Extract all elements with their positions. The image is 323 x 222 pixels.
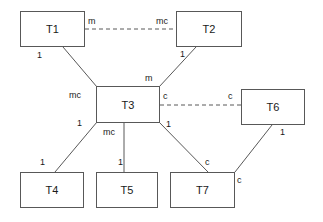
- entity-label: T7: [196, 184, 209, 196]
- cardinality-label-t3-t6-near-t6: c: [228, 92, 233, 101]
- edge-t3-t7: [159, 122, 208, 172]
- entity-box-t5[interactable]: T5: [96, 172, 158, 208]
- entity-label: T3: [121, 99, 134, 111]
- cardinality-label-t1-t2-near-t2: mc: [156, 17, 168, 26]
- cardinality-label-t1-t3-near-t3: mc: [69, 91, 81, 100]
- cardinality-label-t6-t7-near-t6: 1: [280, 128, 285, 137]
- entity-box-t4[interactable]: T4: [20, 172, 84, 208]
- edge-t6-t7: [235, 125, 272, 172]
- cardinality-label-t2-t3-near-t3: m: [145, 74, 153, 83]
- cardinality-label-t2-t3-near-t2: 1: [180, 50, 185, 59]
- cardinality-label-t3-t7-near-t3: 1: [166, 120, 171, 129]
- cardinality-label-t3-t6-near-t3: c: [163, 92, 168, 101]
- edge-t3-t4: [55, 122, 97, 172]
- cardinality-label-t3-t4-near-t3: 1: [77, 119, 82, 128]
- diagram-canvas: T1T2T3T6T4T5T7 mmc1mc1mcc11mc11c1c: [0, 0, 323, 222]
- cardinality-label-t6-t7-near-t7: c: [237, 176, 242, 185]
- entity-label: T5: [120, 184, 133, 196]
- cardinality-label-t3-t5-near-t3: mc: [103, 128, 115, 137]
- cardinality-label-t3-t5-near-t5: 1: [118, 158, 123, 167]
- cardinality-label-t3-t4-near-t4: 1: [40, 158, 45, 167]
- entity-box-t7[interactable]: T7: [170, 172, 235, 208]
- entity-box-t6[interactable]: T6: [241, 89, 305, 125]
- entity-box-t1[interactable]: T1: [20, 11, 85, 47]
- edge-t2-t3: [159, 47, 196, 87]
- entity-label: T1: [46, 23, 59, 35]
- entity-label: T4: [45, 184, 58, 196]
- entity-label: T2: [202, 23, 215, 35]
- entity-label: T6: [266, 101, 279, 113]
- cardinality-label-t1-t3-near-t1: 1: [37, 51, 42, 60]
- cardinality-label-t1-t2-near-t1: m: [88, 17, 96, 26]
- entity-box-t3[interactable]: T3: [96, 86, 160, 123]
- edge-t1-t3: [63, 47, 97, 87]
- entity-box-t2[interactable]: T2: [176, 11, 242, 47]
- cardinality-label-t3-t7-near-t7: c: [205, 158, 210, 167]
